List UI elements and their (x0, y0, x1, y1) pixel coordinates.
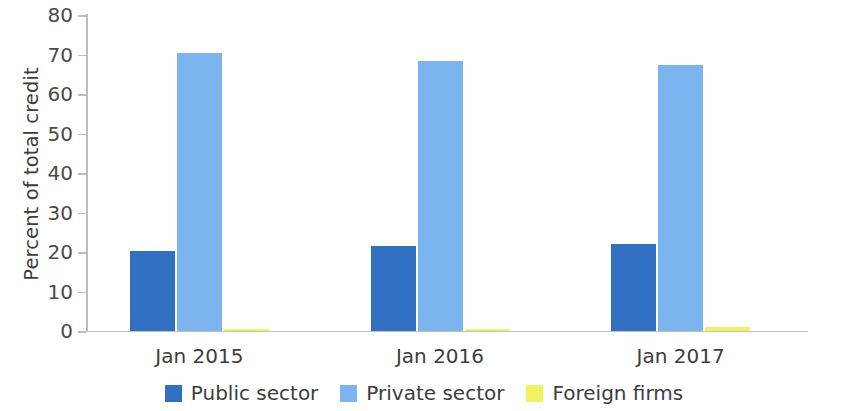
y-axis-tick-mark (78, 15, 86, 17)
bar-foreign[interactable] (224, 329, 269, 331)
bar-public[interactable] (130, 251, 175, 331)
chart-legend: Public sectorPrivate sectorForeign firms (0, 380, 848, 406)
bar-private[interactable] (177, 53, 222, 331)
y-axis-tick-mark (78, 213, 86, 215)
y-axis-tick-label: 10 (48, 279, 73, 305)
x-axis-label: Jan 2017 (571, 342, 790, 370)
bar-group (611, 15, 750, 331)
bar-foreign[interactable] (465, 329, 510, 331)
y-axis-tick: 40 (39, 173, 86, 174)
bar-chart: Percent of total credit 0102030405060708… (0, 0, 848, 411)
y-axis-tick-label: 20 (48, 239, 73, 265)
y-axis-tick-label: 80 (48, 2, 73, 28)
y-axis-tick-label: 0 (60, 318, 73, 344)
bar-public[interactable] (611, 244, 656, 331)
bar-group (371, 15, 510, 331)
y-axis-tick-mark (78, 252, 86, 254)
legend-swatch-private-icon (340, 385, 357, 402)
y-axis-tick: 30 (39, 213, 86, 214)
legend-item-public[interactable]: Public sector (165, 380, 319, 406)
bar-private[interactable] (658, 65, 703, 331)
legend-swatch-public-icon (165, 385, 182, 402)
legend-label: Private sector (366, 380, 504, 406)
x-axis-label: Jan 2015 (90, 342, 309, 370)
y-axis-tick: 20 (39, 252, 86, 253)
legend-item-private[interactable]: Private sector (340, 380, 504, 406)
y-axis-tick-label: 60 (48, 81, 73, 107)
x-axis-label: Jan 2016 (331, 342, 550, 370)
y-axis-tick-mark (78, 173, 86, 175)
y-axis-tick: 60 (39, 94, 86, 95)
plot-area: 01020304050607080 (86, 15, 808, 331)
y-axis-tick-mark (78, 134, 86, 136)
y-axis-tick-label: 30 (48, 200, 73, 226)
y-axis-tick: 0 (39, 331, 86, 332)
y-axis-tick-mark (78, 292, 86, 294)
legend-label: Foreign firms (552, 380, 683, 406)
y-axis-tick-label: 50 (48, 121, 73, 147)
y-axis-tick: 10 (39, 292, 86, 293)
y-axis-tick-mark (78, 331, 86, 333)
y-axis-tick-label: 70 (48, 42, 73, 68)
y-axis-tick-mark (78, 55, 86, 57)
legend-swatch-foreign-icon (526, 385, 543, 402)
y-axis-tick: 70 (39, 55, 86, 56)
bar-group (130, 15, 269, 331)
legend-label: Public sector (191, 380, 319, 406)
bar-private[interactable] (418, 61, 463, 331)
y-axis-tick-label: 40 (48, 160, 73, 186)
y-axis-tick: 50 (39, 134, 86, 135)
bar-public[interactable] (371, 246, 416, 331)
y-axis-tick: 80 (39, 15, 86, 16)
y-axis-tick-mark (78, 94, 86, 96)
legend-item-foreign[interactable]: Foreign firms (526, 380, 683, 406)
bar-foreign[interactable] (705, 327, 750, 331)
